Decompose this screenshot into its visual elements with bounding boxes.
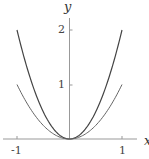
x-axis-label: x [144, 133, 149, 148]
ytick-label-1: 1 [58, 78, 65, 91]
y-axis-label: y [64, 0, 71, 14]
chart-plot [0, 0, 149, 159]
xtick-label-neg1: -1 [11, 144, 22, 157]
xtick-label-1: 1 [119, 144, 126, 157]
ytick-label-2: 2 [58, 23, 65, 36]
